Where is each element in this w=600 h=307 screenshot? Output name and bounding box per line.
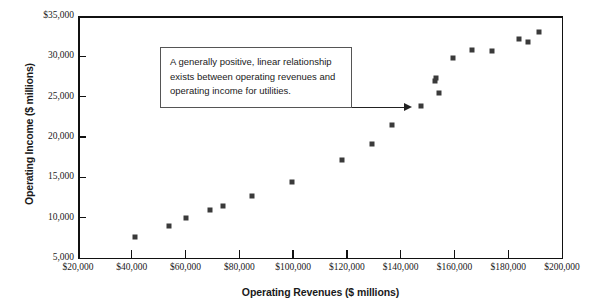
data-point xyxy=(419,103,424,108)
data-point xyxy=(526,39,531,44)
y-tick-label: 20,000 xyxy=(14,131,74,141)
data-point xyxy=(221,204,226,209)
y-tick-label: 10,000 xyxy=(14,212,74,222)
annotation-arrow-head xyxy=(404,103,412,111)
y-tick-mark xyxy=(79,217,86,218)
annotation-line-1: A generally positive, linear relationshi… xyxy=(170,55,342,70)
data-point xyxy=(166,223,171,228)
x-axis-line xyxy=(78,258,563,260)
data-point xyxy=(339,158,344,163)
y-tick-label: 5,000 xyxy=(14,252,74,262)
data-point xyxy=(290,180,295,185)
x-tick-mark xyxy=(239,250,240,258)
x-tick-mark xyxy=(454,250,455,258)
y-tick-mark xyxy=(79,56,86,57)
data-point xyxy=(437,91,442,96)
x-tick-label: $200,000 xyxy=(528,262,596,272)
y-tick-mark xyxy=(79,96,86,97)
annotation-line-2: exists between operating revenues and xyxy=(170,70,342,85)
y-tick-label: 30,000 xyxy=(14,50,74,60)
x-tick-mark xyxy=(400,250,401,258)
data-point xyxy=(389,122,394,127)
x-tick-mark xyxy=(292,250,293,258)
annotation-line-3: operating income for utilities. xyxy=(170,84,342,99)
data-point xyxy=(133,235,138,240)
y-tick-mark xyxy=(79,136,86,137)
x-tick-mark xyxy=(346,250,347,258)
plot-top-border xyxy=(78,16,563,18)
data-point xyxy=(469,47,474,52)
data-point xyxy=(432,79,437,84)
x-tick-mark xyxy=(185,250,186,258)
data-point xyxy=(489,48,494,53)
y-tick-label: 25,000 xyxy=(14,91,74,101)
x-tick-mark xyxy=(131,250,132,258)
scatter-chart-figure: Operating Income ($ millions) Operating … xyxy=(0,0,600,307)
data-point xyxy=(208,207,213,212)
y-tick-mark xyxy=(79,177,86,178)
y-tick-label: 15,000 xyxy=(14,171,74,181)
plot-right-border xyxy=(562,16,564,259)
data-point xyxy=(451,55,456,60)
data-point xyxy=(183,215,188,220)
data-point xyxy=(369,142,374,147)
data-point xyxy=(250,193,255,198)
x-axis-title: Operating Revenues ($ millions) xyxy=(78,286,563,298)
annotation-textbox: A generally positive, linear relationshi… xyxy=(160,47,352,108)
y-tick-label: $35,000 xyxy=(14,10,74,20)
data-point xyxy=(537,30,542,35)
x-tick-mark xyxy=(508,250,509,258)
annotation-arrow-shaft xyxy=(352,107,406,108)
data-point xyxy=(516,36,521,41)
